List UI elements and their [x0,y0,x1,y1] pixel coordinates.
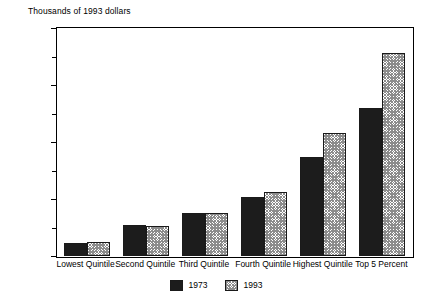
x-axis-labels: Lowest QuintileSecond QuintileThird Quin… [56,259,412,273]
x-axis-label: Lowest Quintile [56,259,115,269]
legend-label-1993: 1993 [244,281,263,290]
bar-1993 [382,53,405,256]
chart-legend: 1973 1993 [0,280,432,291]
bar-1973 [64,243,87,256]
x-axis-label: Highest Quintile [293,259,352,269]
bar-1973 [300,157,323,256]
bar-1973 [182,213,205,256]
legend-entry-1993: 1993 [225,280,263,291]
x-axis-label: Second Quintile [115,259,174,269]
bar-1973 [359,108,382,256]
bar-group [359,28,405,256]
bar-group [123,28,169,256]
legend-swatch-1993-icon [225,280,238,291]
bar-group [241,28,287,256]
bars-layer [57,28,412,256]
legend-entry-1973: 1973 [170,280,208,291]
bar-1993 [323,133,346,256]
bar-group [300,28,346,256]
x-axis-label: Third Quintile [174,259,233,269]
x-axis-label: Fourth Quintile [234,259,293,269]
bar-1993 [87,242,110,256]
x-axis-label: Top 5 Percent [352,259,411,269]
bar-1993 [264,192,287,256]
bar-1993 [205,213,228,256]
bar-group [182,28,228,256]
y-axis: 050100150200 [0,0,56,303]
bar-chart-figure: Thousands of 1993 dollars 050100150200 L… [0,0,432,303]
bar-1973 [123,225,146,256]
bar-group [64,28,110,256]
bar-1973 [241,197,264,256]
bar-1993 [146,226,169,256]
legend-label-1973: 1973 [189,281,208,290]
legend-swatch-1973-icon [170,280,183,291]
